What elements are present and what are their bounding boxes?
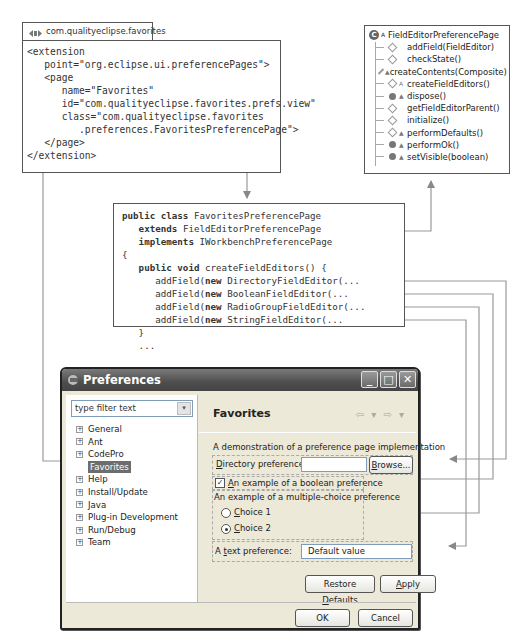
java-line: addField(new StringFieldEditor(... [122, 313, 396, 326]
xml-line: name="Favorites" [27, 84, 276, 97]
filter-input[interactable]: type filter text ▾ [71, 400, 193, 417]
java-line: public class FavoritesPreferencePage [122, 209, 396, 222]
tree-item-general[interactable]: +General [76, 423, 178, 436]
protected-method-icon [388, 55, 398, 65]
tree-item-team[interactable]: +Team [76, 536, 178, 549]
java-line: addField(new DirectoryFieldEditor(... [122, 274, 396, 287]
expand-icon: + [76, 451, 83, 458]
java-line: addField(new BooleanFieldEditor(... [122, 287, 396, 300]
preference-tree: +General +Ant +CodePro Favorites +Help +… [76, 423, 178, 549]
title-separator [199, 432, 416, 433]
expand-icon: + [76, 539, 83, 546]
directory-label: Directory preference: [216, 459, 307, 469]
tree-item-ant[interactable]: +Ant [76, 436, 178, 449]
choice-2-radio[interactable] [221, 524, 231, 534]
override-decorator-icon: ▲ [399, 90, 407, 102]
xml-line: <page [27, 71, 276, 84]
override-decorator-icon: ▲ [399, 127, 407, 139]
tree-item-install-update[interactable]: +Install/Update [76, 486, 178, 499]
text-pref-label: A text preference: [215, 546, 292, 556]
page-title: Favorites [213, 407, 270, 420]
outline-method[interactable]: checkState() [369, 53, 505, 65]
tree-item-run-debug[interactable]: +Run/Debug [76, 524, 178, 537]
preferences-dialog: Preferences _ □ ✕ type filter text ▾ +Ge… [60, 367, 420, 630]
outline-method[interactable]: ▲dispose() [369, 90, 505, 102]
maximize-button[interactable]: □ [380, 371, 397, 388]
protected-method-icon [388, 103, 398, 113]
boolean-label[interactable]: An example of a boolean preference [228, 478, 383, 488]
class-outline: CA FieldEditorPreferencePage addField(Fi… [364, 25, 510, 174]
xml-line: <extension [27, 45, 276, 58]
apply-button[interactable]: Apply [380, 575, 436, 593]
tree-guide-line [375, 42, 376, 166]
public-method-icon [389, 153, 396, 160]
restore-defaults-button[interactable]: Restore Defaults [305, 575, 375, 593]
protected-method-icon [388, 42, 398, 52]
tree-item-plugin-development[interactable]: +Plug-in Development [76, 511, 178, 524]
filter-dropdown-icon[interactable]: ▾ [177, 402, 191, 415]
preference-page: Favorites ⇦ ▾ ⇨ ▾ A demonstration of a p… [199, 395, 416, 602]
tree-item-help[interactable]: +Help [76, 473, 178, 486]
directory-field-editor: Directory preference: Browse... [212, 455, 413, 475]
outline-method[interactable]: AcreateFieldEditors() [369, 78, 505, 90]
java-line: { [122, 248, 396, 261]
directory-input[interactable] [301, 457, 367, 472]
choice-2-label[interactable]: Choice 2 [234, 523, 271, 533]
xml-line: .preferences.FavoritesPreferencePage"> [27, 123, 276, 136]
expand-icon: + [76, 438, 83, 445]
preference-tree-pane: type filter text ▾ +General +Ant +CodePr… [66, 395, 198, 602]
dialog-button-bar: OK Cancel [66, 602, 416, 626]
override-decorator-icon: ▲ [399, 139, 407, 151]
choice-1-radio[interactable] [221, 508, 231, 518]
plugin-editor-tab-label: com.qualityeclipse.favorites [46, 23, 166, 40]
outline-method[interactable]: addField(FieldEditor) [369, 41, 505, 53]
dialog-titlebar[interactable]: Preferences _ □ ✕ [62, 369, 418, 391]
tree-item-favorites[interactable]: Favorites [76, 461, 178, 474]
override-decorator-icon: ▲ [399, 151, 407, 163]
xml-line: point="org.eclipse.ui.preferencePages"> [27, 58, 276, 71]
tree-item-java[interactable]: +Java [76, 499, 178, 512]
outline-method[interactable]: initialize() [369, 114, 505, 126]
eclipse-icon [68, 375, 78, 385]
protected-method-icon [388, 79, 398, 89]
xml-line: </extension> [27, 149, 276, 162]
outline-method[interactable]: getFieldEditorParent() [369, 102, 505, 114]
plugin-editor-tab[interactable]: com.qualityeclipse.favorites [22, 22, 153, 40]
abstract-decorator-icon: A [399, 78, 407, 90]
outline-method[interactable]: ▲setVisible(boolean) [369, 151, 505, 163]
back-arrow-icon[interactable]: ⇦ ▾ [356, 409, 379, 420]
tree-item-codepro[interactable]: +CodePro [76, 448, 178, 461]
radio-group-field-editor: An example of a multiple-choice preferen… [212, 490, 364, 540]
expand-icon: + [76, 514, 83, 521]
java-source-code: public class FavoritesPreferencePage ext… [113, 203, 405, 327]
public-method-icon [389, 141, 396, 148]
protected-method-icon [388, 115, 398, 125]
outline-class-header[interactable]: CA FieldEditorPreferencePage [369, 29, 505, 41]
java-line: public void createFieldEditors() { [122, 261, 396, 274]
outline-method[interactable]: ▲performOk() [369, 139, 505, 151]
text-pref-input[interactable]: Default value [301, 544, 412, 559]
forward-arrow-icon[interactable]: ⇨ ▾ [383, 409, 406, 420]
page-description: A demonstration of a preference page imp… [213, 442, 445, 452]
browse-button[interactable]: Browse... [369, 456, 413, 474]
java-line: ... [122, 339, 396, 352]
outline-method[interactable]: ▲createContents(Composite) [369, 66, 505, 78]
expand-icon: + [76, 489, 83, 496]
protected-method-icon [378, 68, 384, 74]
page-nav: ⇦ ▾ ⇨ ▾ [356, 409, 406, 420]
abstract-decorator-icon: A [381, 29, 385, 41]
outline-class-name: FieldEditorPreferencePage [388, 29, 499, 41]
choice-1-label[interactable]: Choice 1 [234, 507, 271, 517]
xml-line: id="com.qualityeclipse.favorites.prefs.v… [27, 97, 276, 110]
cancel-button[interactable]: Cancel [358, 609, 413, 627]
plugin-xml-code: <extension point="org.eclipse.ui.prefere… [22, 40, 281, 173]
ok-button[interactable]: OK [295, 609, 350, 627]
xml-line: class="com.qualityeclipse.favorites [27, 110, 276, 123]
close-button[interactable]: ✕ [399, 371, 416, 388]
protected-method-icon [388, 128, 398, 138]
minimize-button[interactable]: _ [361, 371, 378, 388]
expand-icon: + [76, 426, 83, 433]
outline-method[interactable]: ▲performDefaults() [369, 127, 505, 139]
boolean-checkbox[interactable]: ✓ [215, 478, 225, 488]
string-field-editor: A text preference: Default value [212, 541, 413, 562]
